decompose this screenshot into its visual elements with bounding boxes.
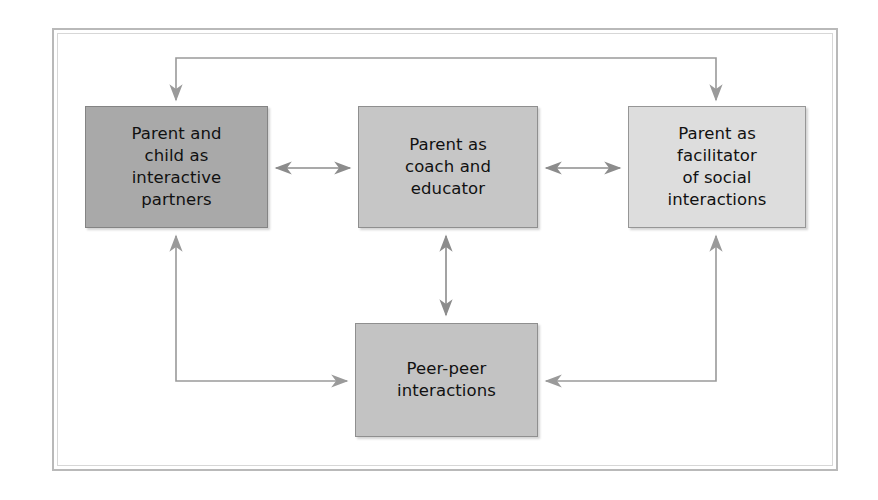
node-label: Parent and child as interactive partners (125, 123, 227, 210)
node-peer-peer-interactions[interactable]: Peer-peer interactions (355, 323, 538, 437)
connector-facilitator-peer (546, 236, 716, 381)
connector-peer-parentchild (176, 236, 347, 381)
node-parent-as-facilitator-of-social-interactions[interactable]: Parent as facilitator of social interact… (628, 106, 806, 228)
node-parent-as-coach-and-educator[interactable]: Parent as coach and educator (358, 106, 538, 228)
connector-top-bracket (176, 58, 716, 100)
node-label: Parent as coach and educator (399, 134, 497, 199)
diagram-canvas: Parent and child as interactive partners… (0, 0, 878, 500)
node-label: Peer-peer interactions (391, 358, 502, 402)
node-parent-and-child-as-interactive-partners[interactable]: Parent and child as interactive partners (85, 106, 268, 228)
node-label: Parent as facilitator of social interact… (661, 123, 772, 210)
